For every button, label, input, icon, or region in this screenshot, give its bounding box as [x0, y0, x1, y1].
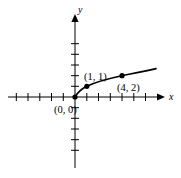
y-axis-label: y	[77, 4, 83, 15]
data-point-1-1	[84, 84, 89, 89]
data-point-origin	[72, 94, 77, 99]
point-label-4-2: (4, 2)	[117, 82, 140, 94]
coordinate-plane-svg: (0, 0) (1, 1) (4, 2) x y	[0, 0, 181, 178]
data-point-4-2	[119, 73, 124, 78]
x-axis-arrow-icon	[157, 93, 165, 100]
y-axis-arrow-icon	[71, 14, 78, 22]
graph-figure: (0, 0) (1, 1) (4, 2) x y	[0, 0, 181, 178]
x-axis-label: x	[168, 91, 174, 102]
point-label-0-0: (0, 0)	[54, 104, 77, 116]
point-label-1-1: (1, 1)	[84, 71, 107, 83]
